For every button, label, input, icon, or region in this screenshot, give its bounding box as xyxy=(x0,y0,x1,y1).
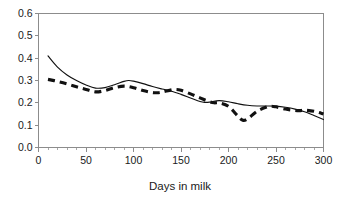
y-tick-label: 0.6 xyxy=(18,7,33,19)
x-tick-label: 50 xyxy=(80,154,92,166)
x-axis: 050100150200250300 xyxy=(36,148,333,166)
series-line-solid-curve xyxy=(48,56,324,120)
y-tick-label: 0.1 xyxy=(18,119,33,131)
y-axis: 0.00.10.20.30.40.50.6 xyxy=(18,7,39,153)
series-line-dashed-curve xyxy=(48,79,324,120)
x-tick-label: 100 xyxy=(125,154,143,166)
plot-frame xyxy=(39,14,324,148)
x-tick-label: 150 xyxy=(172,154,190,166)
x-tick-label: 300 xyxy=(315,154,333,166)
x-tick-label: 250 xyxy=(267,154,285,166)
chart-page: 0.00.10.20.30.40.50.6 050100150200250300… xyxy=(0,0,337,205)
x-tick-label: 0 xyxy=(36,154,42,166)
plot-border xyxy=(39,14,324,148)
y-tick-label: 0.0 xyxy=(18,141,33,153)
y-tick-label: 0.2 xyxy=(18,96,33,108)
y-tick-label: 0.5 xyxy=(18,29,33,41)
x-tick-label: 200 xyxy=(220,154,238,166)
x-axis-title: Days in milk xyxy=(149,180,211,192)
y-tick-label: 0.3 xyxy=(18,74,33,86)
y-tick-label: 0.4 xyxy=(18,52,33,64)
line-chart: 0.00.10.20.30.40.50.6 050100150200250300… xyxy=(0,0,337,205)
data-series-group xyxy=(48,56,324,121)
